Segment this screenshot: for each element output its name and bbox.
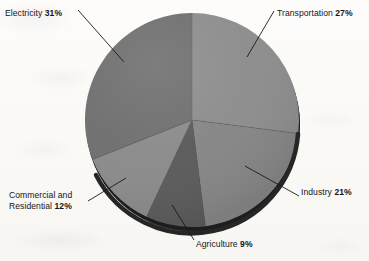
label-electricity: Electricity 31% [5, 8, 62, 19]
pie-chart-figure: Electricity 31% Transportation 27% Indus… [0, 0, 369, 261]
label-industry-category: Industry [301, 187, 334, 197]
label-commercial-residential: Commercial andResidential 12% [9, 190, 72, 213]
label-agriculture: Agriculture 9% [196, 239, 253, 250]
label-industry: Industry 21% [301, 187, 352, 198]
label-transportation: Transportation 27% [277, 8, 353, 19]
label-commercial-percent: 12% [55, 201, 72, 211]
label-commercial-line2-category: Residential [9, 201, 55, 211]
chart-area: Electricity 31% Transportation 27% Indus… [0, 0, 369, 261]
label-industry-percent: 21% [334, 187, 351, 197]
label-agriculture-percent: 9% [240, 239, 253, 249]
label-agriculture-category: Agriculture [196, 239, 240, 249]
label-transportation-category: Transportation [277, 8, 335, 18]
label-commercial-line1: Commercial and [9, 190, 72, 201]
pie-chart-graphic [0, 0, 369, 261]
leader-line-electricity [78, 10, 124, 62]
label-electricity-percent: 31% [45, 8, 62, 18]
label-electricity-category: Electricity [5, 8, 45, 18]
label-transportation-percent: 27% [335, 8, 352, 18]
pie-sheen [85, 13, 299, 227]
